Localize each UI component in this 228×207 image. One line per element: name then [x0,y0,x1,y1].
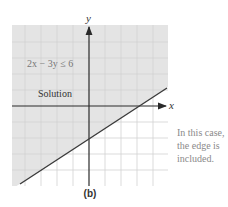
y-axis-label: y [86,12,91,24]
figure-caption: (b) [0,188,180,199]
edge-note-line: In this case, [177,126,228,139]
edge-note-line: included. [177,152,228,165]
edge-note: In this case, the edge is included. [177,126,228,165]
inequality-label: 2x − 3y ≤ 6 [27,58,73,69]
inequality-graph [0,0,228,207]
x-axis-label: x [169,99,174,111]
edge-note-line: the edge is [177,139,228,152]
graph-figure: y x 2x − 3y ≤ 6 Solution In this case, t… [0,0,228,207]
solution-label: Solution [38,88,72,99]
